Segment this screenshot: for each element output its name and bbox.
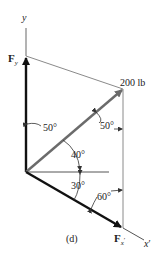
x-prime-axis-label: x′ [143,238,151,249]
angle-label-40: 40° [71,149,85,160]
force-diagram: y Fy 200 lb 50° 50° 40° 30° 60° (d) Fx′ … [0,0,163,262]
arc-50-left [27,123,41,126]
y-axis-label: y [21,12,27,23]
angle-label-30: 30° [71,180,85,191]
construction-line-top [26,56,123,89]
force-magnitude-label: 200 lb [120,77,145,88]
x-prime-axis [123,228,144,240]
fx-prime-label: Fx′ [114,232,126,247]
arc-60-tick [111,190,122,191]
angle-label-60: 60° [97,191,111,202]
caption: (d) [66,233,78,245]
fy-label: Fy [8,52,19,67]
angle-label-50-right: 50° [100,120,114,131]
angle-label-50-left: 50° [43,122,57,133]
